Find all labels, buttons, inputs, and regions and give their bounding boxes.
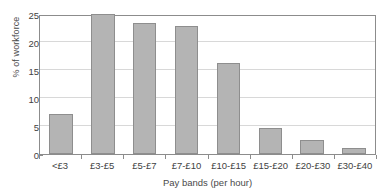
y-axis-tick-group: 0510152025: [0, 15, 39, 155]
bar-slot: [124, 16, 166, 154]
x-tick-mark-6: [292, 155, 293, 159]
x-tick-label: £20-£30: [292, 160, 334, 171]
x-tick-label: <£3: [39, 160, 81, 171]
bar-slot: [333, 16, 375, 154]
clipped-caption-text: [6, 0, 126, 3]
y-tick-label-25: 25: [13, 11, 39, 20]
bar: [175, 26, 198, 154]
bar: [217, 63, 240, 154]
bars-layer: [40, 16, 375, 154]
bar: [259, 128, 282, 154]
x-tick-label: £10-£15: [208, 160, 250, 171]
x-axis-tick-labels: <£3£3-£5£5-£7£7-£10£10-£15£15-£20£20-£30…: [39, 160, 376, 171]
x-tick-label: £7-£10: [165, 160, 207, 171]
x-axis-title: Pay bands (per hour): [39, 177, 376, 188]
x-tick-mark-8: [376, 155, 377, 159]
y-tick-label-20: 20: [13, 39, 39, 48]
bar-slot: [40, 16, 82, 154]
plot-area: [39, 15, 376, 155]
x-tick-label: £15-£20: [250, 160, 292, 171]
bar-chart-figure: % of workforce 0510152025 <£3£3-£5£5-£7£…: [0, 0, 390, 196]
x-tick-mark-3: [165, 155, 166, 159]
x-tick-label: £30-£40: [334, 160, 376, 171]
bar: [342, 148, 365, 154]
x-tick-label: £5-£7: [123, 160, 165, 171]
bar: [133, 23, 156, 154]
y-tick-label-15: 15: [13, 67, 39, 76]
y-tick-label-10: 10: [13, 95, 39, 104]
x-tick-mark-7: [334, 155, 335, 159]
bar: [300, 140, 323, 154]
y-tick-label-0: 0: [13, 151, 39, 160]
y-tick-label-5: 5: [13, 123, 39, 132]
x-tick-mark-2: [123, 155, 124, 159]
bar-slot: [208, 16, 250, 154]
x-tick-mark-4: [208, 155, 209, 159]
x-tick-mark-0: [39, 155, 40, 159]
bar: [91, 14, 114, 154]
bar-slot: [291, 16, 333, 154]
bar-slot: [82, 16, 124, 154]
bar-slot: [166, 16, 208, 154]
x-tick-label: £3-£5: [81, 160, 123, 171]
bar: [49, 114, 72, 154]
x-tick-mark-5: [250, 155, 251, 159]
x-tick-mark-1: [81, 155, 82, 159]
bar-slot: [249, 16, 291, 154]
